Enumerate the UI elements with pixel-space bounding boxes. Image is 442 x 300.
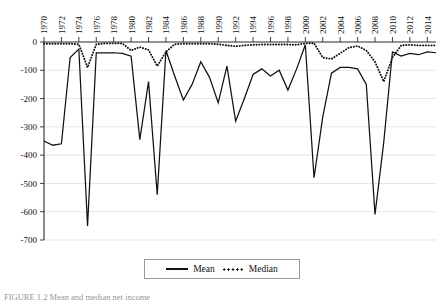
y-axis-label: 0 [33,37,38,47]
x-axis-label: 1988 [196,16,206,35]
x-axis-label: 1984 [161,16,171,35]
x-axis-label: 1974 [74,16,84,35]
x-axis-label: 2006 [353,16,363,35]
x-axis-label: 1994 [248,16,258,35]
figure-container: 0-100-200-300-400-500-600-70019701972197… [0,0,442,300]
y-axis-label: -100 [21,65,38,75]
x-axis-label: 2014 [423,16,433,35]
x-axis-label: 1972 [57,16,67,34]
y-axis-label: -200 [21,94,38,104]
x-axis-label: 2010 [388,16,398,35]
legend-label-median: Median [249,264,278,274]
x-axis-label: 2012 [405,16,415,34]
legend-label-mean: Mean [193,264,215,274]
x-axis-label: 2002 [318,16,328,34]
x-axis-label: 1996 [266,16,276,35]
x-axis-label: 2008 [370,16,380,35]
x-axis-label: 1986 [179,16,189,35]
series-line-median [44,43,436,81]
x-axis-label: 1992 [231,16,241,34]
line-solid-icon [166,268,188,270]
y-axis-label: -600 [21,207,38,217]
series-line-mean [44,45,436,226]
x-axis-label: 1970 [39,16,49,35]
x-axis-label: 1976 [92,16,102,35]
x-axis-label: 1982 [144,16,154,34]
chart-legend: Mean Median [144,259,300,279]
y-axis-label: -300 [21,122,38,132]
x-axis-label: 1980 [127,16,137,35]
line-chart: 0-100-200-300-400-500-600-70019701972197… [0,0,442,258]
figure-caption: FIGURE 1.2 Mean and median net income [4,292,438,300]
y-axis-label: -700 [21,235,38,245]
x-axis-label: 1990 [214,16,224,35]
x-axis-label: 1978 [109,16,119,35]
legend-item-median: Median [222,264,278,274]
x-axis-label: 2004 [336,16,346,35]
x-axis-label: 2000 [301,16,311,35]
legend-item-mean: Mean [166,264,215,274]
line-dotted-icon [222,268,244,271]
y-axis-label: -500 [21,179,38,189]
x-axis-label: 1998 [283,16,293,35]
y-axis-label: -400 [21,150,38,160]
